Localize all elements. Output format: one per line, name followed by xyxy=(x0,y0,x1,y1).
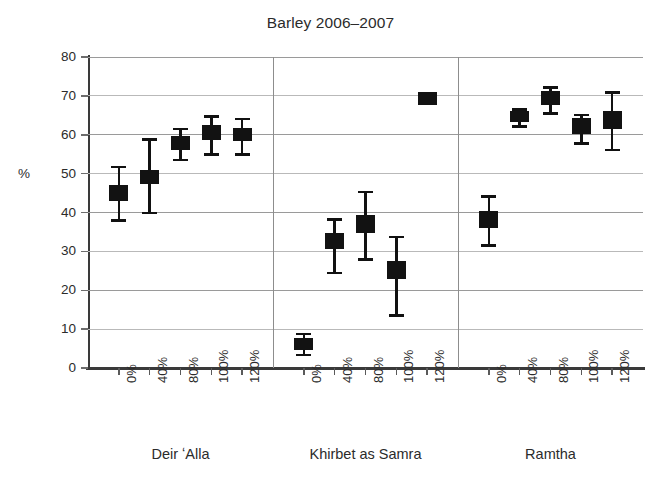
x-tick-mark xyxy=(519,368,521,375)
error-bar-cap-upper xyxy=(111,166,126,169)
x-tick-label: 120% xyxy=(248,350,261,383)
data-point xyxy=(107,165,131,223)
y-tick-label-80: 80 xyxy=(34,50,76,64)
error-bar-cap-upper xyxy=(605,91,620,94)
y-tick-label-50: 50 xyxy=(34,167,76,181)
x-tick-mark xyxy=(118,368,120,375)
x-tick-label: 40% xyxy=(526,357,539,383)
data-point xyxy=(292,332,316,357)
error-bar-cap-lower xyxy=(543,112,558,115)
gridline-y-20 xyxy=(88,290,643,291)
error-bar-cap-upper xyxy=(142,138,157,141)
error-bar-cap-lower xyxy=(111,219,126,222)
y-tick-label-10: 10 xyxy=(34,322,76,336)
gridline-y-50 xyxy=(88,173,643,174)
marker-square xyxy=(171,136,190,151)
x-tick-label: 0% xyxy=(495,364,508,383)
marker-square xyxy=(603,111,622,129)
error-bar-cap-upper xyxy=(574,114,589,117)
x-tick-label: 80% xyxy=(557,357,570,383)
error-bar-cap-upper xyxy=(389,236,404,239)
error-bar-cap-upper xyxy=(296,333,311,336)
x-tick-mark xyxy=(365,368,367,375)
marker-square xyxy=(325,233,344,249)
x-tick-mark xyxy=(241,368,243,375)
marker-square xyxy=(541,91,560,105)
x-tick-label: 40% xyxy=(341,357,354,383)
error-bar-cap-upper xyxy=(235,118,250,121)
x-tick-label: 100% xyxy=(402,350,415,383)
y-tick-label-20: 20 xyxy=(34,283,76,297)
data-point xyxy=(354,190,378,262)
marker-square xyxy=(418,92,437,106)
x-tick-mark xyxy=(303,368,305,375)
panel-divider-1 xyxy=(273,57,274,368)
marker-square xyxy=(387,261,406,279)
data-point xyxy=(230,117,254,156)
x-tick-mark xyxy=(334,368,336,375)
error-bar-cap-lower xyxy=(296,354,311,357)
error-bar-cap-upper xyxy=(358,191,373,194)
x-tick-label: 0% xyxy=(310,364,323,383)
data-point xyxy=(384,235,408,318)
group-label-ramtha: Ramtha xyxy=(458,446,643,462)
y-tick-mark-30 xyxy=(81,251,88,253)
marker-square xyxy=(572,118,591,133)
y-tick-mark-60 xyxy=(81,134,88,136)
marker-square xyxy=(510,111,529,122)
marker-square xyxy=(233,128,252,141)
error-bar-cap-upper xyxy=(173,128,188,131)
x-tick-mark xyxy=(149,368,151,375)
marker-square xyxy=(109,185,128,201)
error-bar-cap-upper xyxy=(204,115,219,118)
data-point xyxy=(569,113,593,145)
panel-divider-2 xyxy=(458,57,459,368)
marker-square xyxy=(202,125,221,140)
data-point xyxy=(138,137,162,214)
x-tick-mark xyxy=(396,368,398,375)
y-tick-label-70: 70 xyxy=(34,89,76,103)
marker-square xyxy=(479,211,498,228)
data-point xyxy=(600,90,624,151)
x-tick-label: 80% xyxy=(372,357,385,383)
y-tick-mark-40 xyxy=(81,212,88,214)
y-tick-mark-80 xyxy=(81,56,88,58)
error-bar-cap-lower xyxy=(142,212,157,215)
data-point xyxy=(199,114,223,156)
y-tick-label-40: 40 xyxy=(34,206,76,220)
marker-square xyxy=(294,338,313,350)
x-tick-mark xyxy=(211,368,213,375)
error-bar-cap-lower xyxy=(235,153,250,156)
data-point xyxy=(415,96,439,100)
data-point xyxy=(323,217,347,275)
y-tick-mark-20 xyxy=(81,290,88,292)
data-point xyxy=(169,127,193,162)
gridline-y-10 xyxy=(88,329,643,330)
x-tick-label: 80% xyxy=(187,357,200,383)
y-tick-mark-50 xyxy=(81,173,88,175)
chart-figure: Barley 2006–2007 % 01020304050607080 0%4… xyxy=(0,0,661,479)
x-tick-mark xyxy=(180,368,182,375)
marker-square xyxy=(140,170,159,185)
x-tick-label: 100% xyxy=(587,350,600,383)
y-tick-mark-10 xyxy=(81,328,88,330)
data-point xyxy=(508,107,532,128)
error-bar-cap-lower xyxy=(327,272,342,275)
group-label-khirbet-as-samra: Khirbet as Samra xyxy=(273,446,458,462)
chart-title: Barley 2006–2007 xyxy=(0,14,661,32)
y-tick-label-60: 60 xyxy=(34,128,76,142)
data-point xyxy=(539,85,563,115)
error-bar-cap-upper xyxy=(481,195,496,198)
x-tick-mark xyxy=(611,368,613,375)
x-tick-mark xyxy=(581,368,583,375)
error-bar-cap-upper xyxy=(543,86,558,89)
error-bar-cap-lower xyxy=(605,149,620,152)
error-bar-cap-lower xyxy=(574,142,589,145)
error-bar-cap-lower xyxy=(173,159,188,162)
gridline-y-80 xyxy=(88,57,643,58)
error-bar-cap-lower xyxy=(389,314,404,317)
x-tick-label: 40% xyxy=(156,357,169,383)
group-label-deir-alla: Deir ʻAlla xyxy=(88,446,273,462)
error-bar-cap-lower xyxy=(358,258,373,261)
y-tick-mark-70 xyxy=(81,95,88,97)
